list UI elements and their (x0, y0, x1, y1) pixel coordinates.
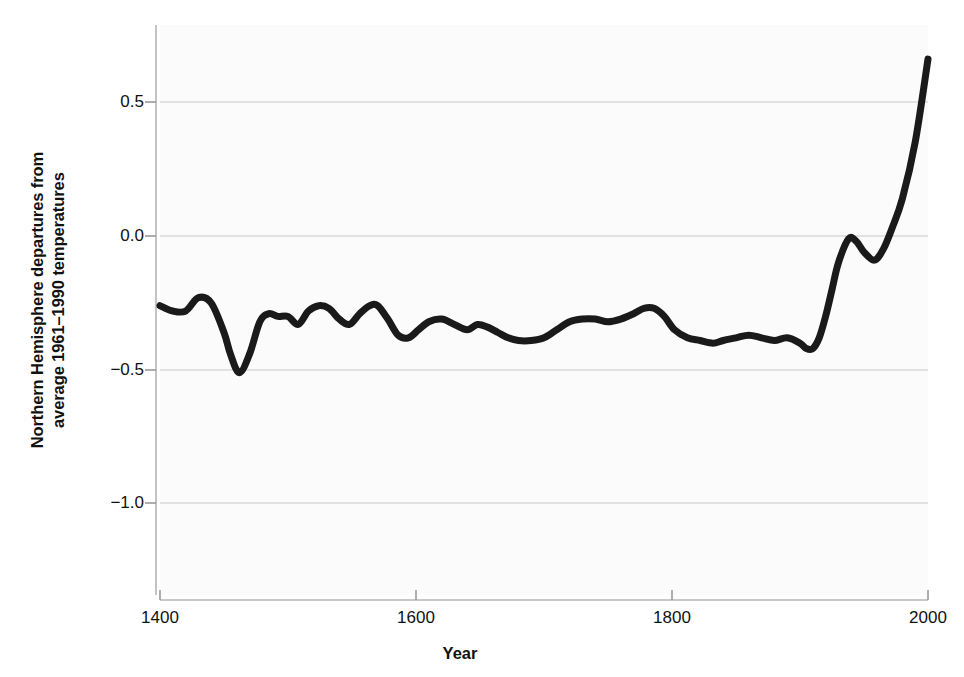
x-axis-title-container: Year (0, 644, 964, 663)
x-tick-label-2: 1800 (653, 608, 691, 628)
x-tick-label-0: 1400 (141, 608, 179, 628)
x-tick-label-1: 1600 (397, 608, 435, 628)
x-tick-label-3: 2000 (909, 608, 947, 628)
y-axis-ticks (145, 102, 156, 503)
temperature-anomaly-chart: Northern Hemisphere departures from aver… (0, 0, 964, 677)
plot-background (160, 25, 928, 595)
plot-area (0, 0, 964, 677)
x-axis-tick-labels: 1400 1600 1800 2000 (0, 608, 964, 634)
x-axis-title: Year (443, 644, 478, 662)
